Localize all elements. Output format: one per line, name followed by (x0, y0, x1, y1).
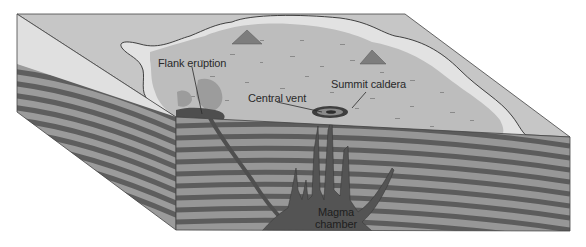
block-diagram-svg (0, 0, 586, 247)
label-summit-caldera: Summit caldera (331, 78, 406, 90)
label-magma-line2: chamber (306, 218, 366, 230)
label-magma-line1: Magma (306, 206, 366, 218)
label-flank-eruption: Flank eruption (158, 57, 226, 69)
label-central-vent: Central vent (248, 92, 306, 104)
volcano-diagram: Flank eruption Central vent Summit calde… (0, 0, 586, 247)
summit-caldera (312, 106, 348, 118)
label-magma-chamber: Magma chamber (306, 206, 366, 230)
